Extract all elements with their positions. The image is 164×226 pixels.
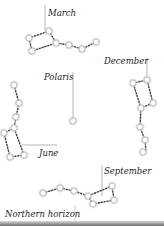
march-star-core (67, 43, 70, 46)
june-star-core (12, 126, 15, 129)
december-star-core (151, 101, 154, 104)
june-star-core (17, 101, 20, 104)
december-label: December (104, 57, 148, 66)
june-star-core (8, 155, 11, 158)
horizon-bar (0, 221, 164, 226)
december-star-core (131, 81, 134, 84)
september-star-core (86, 194, 89, 197)
june-star-core (2, 131, 5, 134)
december-star-core (138, 125, 141, 128)
june-star-core (12, 83, 15, 86)
polaris-label: Polaris (44, 73, 73, 82)
september-star-core (41, 191, 44, 194)
march-star-core (30, 49, 33, 52)
march-star-core (27, 36, 30, 39)
march-label: March (48, 9, 76, 18)
september-label: September (104, 167, 151, 176)
december-star-core (145, 78, 148, 81)
march-star-core (94, 40, 97, 43)
december-star-core (143, 138, 146, 141)
september-star-core (72, 189, 75, 192)
september-star-core (112, 198, 115, 201)
september-star-core (110, 184, 113, 187)
march-star-core (47, 29, 50, 32)
september-star-core (58, 186, 61, 189)
march-star-core (54, 41, 57, 44)
march-star-core (80, 47, 83, 50)
june-label: June (39, 149, 58, 158)
december-star-core (139, 106, 142, 109)
big-dipper-diagram: March December Polaris June September No… (0, 0, 164, 226)
northern-horizon-label: Northern horizon (5, 210, 80, 219)
december-star-core (141, 150, 144, 153)
june-star-core (14, 115, 17, 118)
stars (0, 26, 159, 210)
september-star-core (91, 202, 94, 205)
june-star-core (22, 153, 25, 156)
polaris-star-core (71, 119, 74, 122)
sky-canvas (0, 0, 164, 226)
